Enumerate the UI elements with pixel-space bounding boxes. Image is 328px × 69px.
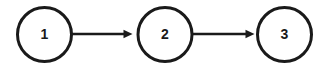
node-1-label: 1 <box>41 26 49 42</box>
edge-node2-to-node3-arrowhead-icon <box>246 30 255 38</box>
node-3-label: 3 <box>281 26 289 42</box>
diagram-canvas: 1 2 3 <box>0 0 328 69</box>
node-1[interactable]: 1 <box>18 8 72 62</box>
node-2[interactable]: 2 <box>138 8 192 62</box>
node-2-label: 2 <box>161 26 169 42</box>
edge-node1-to-node2 <box>72 30 133 38</box>
edge-node2-to-node3 <box>193 30 255 38</box>
node-3[interactable]: 3 <box>258 8 312 62</box>
directed-graph: 1 2 3 <box>0 0 328 69</box>
edge-node1-to-node2-arrowhead-icon <box>124 30 133 38</box>
